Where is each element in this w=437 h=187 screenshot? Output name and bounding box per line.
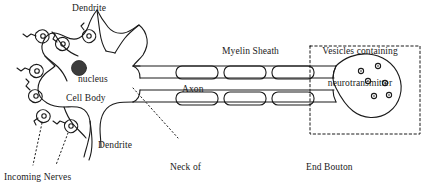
label-vesicles: Vesicles containing neurotransmitter bbox=[308, 25, 412, 109]
axon-neck-taper bbox=[133, 66, 140, 78]
label-vesicles-line1: Vesicles containing bbox=[308, 46, 412, 57]
leader-incoming-nerves-1 bbox=[33, 123, 42, 165]
incoming-nerve-terminal bbox=[17, 65, 43, 78]
label-dendrite-bottom: Dendrite bbox=[98, 140, 132, 151]
label-end-bouton: End Bouton (enlarged) bbox=[306, 141, 353, 187]
label-neck-of-axon-line1: Neck of bbox=[170, 162, 201, 173]
label-axon: Axon bbox=[182, 84, 204, 95]
label-vesicles-line2: neurotransmitter bbox=[308, 78, 412, 89]
incoming-nerve-terminal bbox=[53, 120, 78, 133]
dendrite-upper-fork bbox=[106, 51, 115, 53]
dendrite-upper-main bbox=[97, 10, 106, 51]
label-cell-body: Cell Body bbox=[66, 93, 106, 104]
label-incoming-nerves: Incoming Nerves bbox=[4, 172, 71, 183]
label-neck-of-axon: Neck of Axon bbox=[170, 141, 201, 187]
dendrite-bottom-main bbox=[64, 107, 86, 138]
label-nucleus: nucleus bbox=[78, 74, 108, 85]
incoming-nerve-terminal bbox=[23, 30, 49, 43]
dendrite-upper-right bbox=[115, 25, 139, 53]
label-end-bouton-line1: End Bouton bbox=[306, 162, 353, 173]
leader-incoming-nerves-2 bbox=[56, 133, 68, 165]
neuron-diagram-figure: Dendrite nucleus Cell Body Dendrite Inco… bbox=[0, 0, 437, 187]
label-dendrite-top: Dendrite bbox=[72, 3, 106, 14]
dendrite-bottom-stem bbox=[89, 121, 92, 160]
label-myelin-sheath: Myelin Sheath bbox=[222, 46, 279, 57]
incoming-nerve-terminal bbox=[26, 79, 42, 102]
